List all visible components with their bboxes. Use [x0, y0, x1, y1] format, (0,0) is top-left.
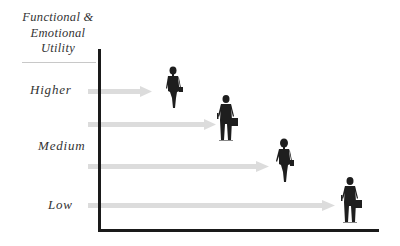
businessman-icon	[340, 176, 364, 224]
arrow-4	[88, 200, 338, 212]
businessman-icon	[216, 94, 240, 142]
y-axis-title: Functional & Emotional Utility	[8, 10, 108, 57]
y-axis-title-line3: Utility	[8, 41, 108, 57]
arrow-3	[88, 161, 272, 173]
title-underline	[22, 62, 96, 63]
x-axis	[98, 229, 379, 232]
y-axis-title-line2: Emotional	[8, 26, 108, 42]
level-label-higher: Higher	[30, 82, 72, 98]
y-axis-title-line1: Functional &	[8, 10, 108, 26]
level-label-low: Low	[48, 197, 73, 213]
businesswoman-icon	[274, 138, 296, 184]
y-axis	[98, 49, 101, 232]
businesswoman-icon	[163, 66, 185, 110]
level-label-medium: Medium	[38, 138, 85, 154]
arrow-2	[88, 119, 218, 131]
